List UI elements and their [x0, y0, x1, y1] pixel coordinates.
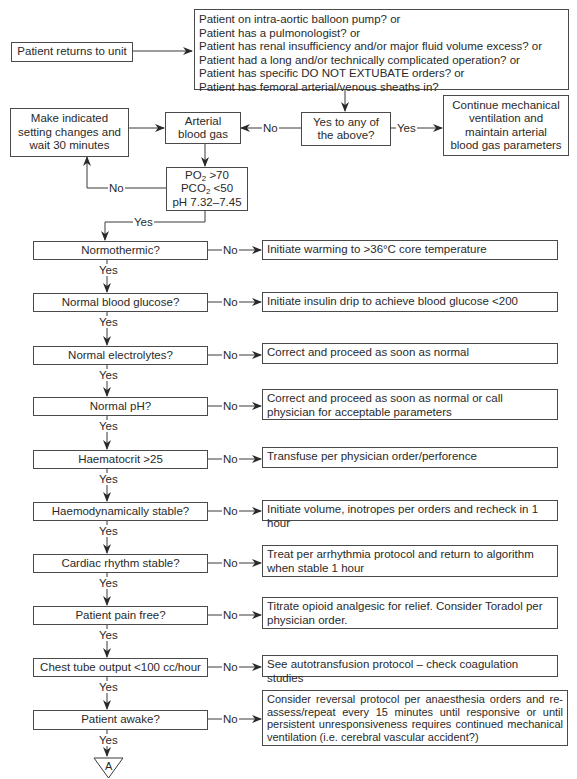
abg-criteria-box: PO2 >70 PCO2 <50 pH 7.32–7.45 [166, 167, 248, 211]
action-box: Initiate volume, inotropes per orders an… [262, 500, 558, 521]
yes-label: Yes [98, 525, 119, 537]
pco2-value: <50 [210, 182, 233, 194]
action-label: Titrate opioid analgesic for relief. Con… [267, 600, 543, 626]
criteria-line: Patient has specific DO NOT EXTUBATE ord… [199, 67, 564, 81]
no-label: No [222, 661, 239, 673]
criteria-line: Patient had a long and/or technically co… [199, 54, 564, 68]
action-box: Consider reversal protocol per anaesthes… [262, 690, 568, 746]
criteria-line: Patient has a pulmonologist? or [199, 27, 564, 41]
action-box: Initiate warming to >36°C core temperatu… [262, 240, 558, 260]
no-label: No [222, 453, 239, 465]
ph-line: pH 7.32–7.45 [172, 196, 241, 210]
no-label: No [108, 182, 125, 194]
no-label: No [222, 557, 239, 569]
action-label: Initiate warming to >36°C core temperatu… [267, 243, 487, 255]
question-box: Haematocrit >25 [33, 450, 208, 469]
yes-label: Yes [98, 577, 119, 589]
no-label: No [222, 713, 239, 725]
start-label: Patient returns to unit [17, 45, 126, 59]
criteria-box: Patient on intra-aortic balloon pump? or… [194, 9, 569, 90]
action-label: Correct and proceed as soon as normal [267, 346, 469, 358]
continue-ventilation-box: Continue mechanical ventilation and main… [443, 95, 569, 156]
question-label: Patient awake? [81, 713, 160, 727]
yes-label: Yes [98, 369, 119, 381]
yes-to-any-label: Yes to any of the above? [306, 116, 386, 143]
action-label: Transfuse per physician order/perforence [267, 450, 477, 462]
question-label: Haematocrit >25 [78, 453, 163, 467]
question-box: Patient pain free? [33, 606, 208, 625]
yes-label: Yes [396, 122, 417, 134]
yes-label: Yes [98, 629, 119, 641]
po2-value: >70 [206, 169, 229, 181]
pco2-line: PCO2 <50 [181, 182, 233, 196]
yes-label: Yes [133, 216, 154, 228]
continue-ventilation-label: Continue mechanical ventilation and main… [450, 99, 562, 153]
question-label: Patient pain free? [75, 609, 165, 623]
pco2-prefix: PCO [181, 182, 206, 194]
action-box: Correct and proceed as soon as normal or… [262, 389, 558, 420]
yes-label: Yes [98, 316, 119, 328]
question-label: Haemodynamically stable? [52, 505, 189, 519]
make-changes-label: Make indicated setting changes and wait … [15, 112, 124, 153]
yes-label: Yes [98, 734, 119, 746]
question-label: Normothermic? [81, 244, 160, 258]
po2-line: PO2 >70 [185, 169, 229, 183]
question-label: Normal blood glucose? [62, 296, 180, 310]
no-label: No [222, 244, 239, 256]
action-box: See autotransfusion protocol – check coa… [262, 655, 558, 677]
criteria-line: Patient has renal insufficiency and/or m… [199, 40, 564, 54]
action-box: Treat per arrhythmia protocol and return… [262, 545, 558, 577]
action-label: Treat per arrhythmia protocol and return… [267, 548, 534, 574]
yes-label: Yes [98, 681, 119, 693]
question-box: Chest tube output <100 cc/hour [33, 658, 208, 677]
question-box: Cardiac rhythm stable? [33, 554, 208, 573]
arterial-blood-gas-box: Arterial blood gas [165, 112, 241, 144]
question-label: Cardiac rhythm stable? [61, 557, 179, 571]
action-box: Titrate opioid analgesic for relief. Con… [262, 597, 558, 629]
make-changes-box: Make indicated setting changes and wait … [10, 108, 129, 157]
question-label: Normal pH? [90, 400, 151, 414]
question-box: Haemodynamically stable? [33, 502, 208, 521]
question-box: Patient awake? [33, 710, 208, 730]
action-box: Initiate insulin drip to achieve blood g… [262, 292, 558, 312]
no-label: No [222, 400, 239, 412]
action-box: Correct and proceed as soon as normal [262, 343, 558, 364]
criteria-line: Patient on intra-aortic balloon pump? or [199, 13, 564, 27]
yes-label: Yes [98, 420, 119, 432]
yes-label: Yes [98, 264, 119, 276]
question-label: Normal electrolytes? [68, 349, 173, 363]
no-label: No [222, 505, 239, 517]
action-box: Transfuse per physician order/perforence [262, 447, 558, 468]
po2-prefix: PO [185, 169, 202, 181]
action-label: Correct and proceed as soon as normal or… [267, 392, 503, 418]
yes-to-any-box: Yes to any of the above? [301, 112, 391, 146]
connector-label: A [104, 760, 113, 772]
question-label: Chest tube output <100 cc/hour [40, 661, 201, 675]
action-label: Consider reversal protocol per anaesthes… [267, 693, 563, 743]
yes-label: Yes [98, 473, 119, 485]
question-box: Normal pH? [33, 397, 208, 416]
start-box: Patient returns to unit [11, 42, 133, 62]
question-box: Normal blood glucose? [33, 293, 208, 312]
arterial-blood-gas-label: Arterial blood gas [172, 115, 234, 142]
no-label: No [222, 349, 239, 361]
question-box: Normothermic? [33, 241, 208, 260]
no-label: No [222, 609, 239, 621]
criteria-line: Patient has femoral arterial/venous shea… [199, 81, 564, 95]
action-label: Initiate insulin drip to achieve blood g… [267, 295, 518, 307]
no-label: No [262, 122, 279, 134]
question-box: Normal electrolytes? [33, 346, 208, 365]
no-label: No [222, 296, 239, 308]
